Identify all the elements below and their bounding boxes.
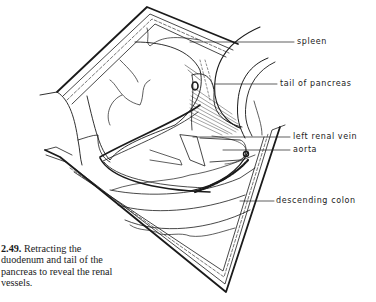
leader-lines bbox=[190, 42, 294, 201]
pancreas-tail bbox=[185, 60, 242, 135]
figure-number: 2.49. bbox=[1, 243, 21, 254]
retractor-blades bbox=[215, 27, 275, 138]
renal-vessels bbox=[150, 135, 249, 166]
label-descending-colon: descending colon bbox=[276, 196, 356, 205]
figure-caption: 2.49. Retracting the duodenum and tail o… bbox=[1, 243, 121, 289]
label-spleen: spleen bbox=[297, 37, 327, 46]
label-left-renal-vein: left renal vein bbox=[293, 132, 357, 141]
label-tail-of-pancreas: tail of pancreas bbox=[280, 79, 351, 88]
spleen-outline bbox=[40, 28, 201, 165]
label-aorta: aorta bbox=[293, 145, 317, 154]
descending-colon bbox=[110, 155, 255, 236]
upper-drape-border bbox=[57, 7, 238, 104]
